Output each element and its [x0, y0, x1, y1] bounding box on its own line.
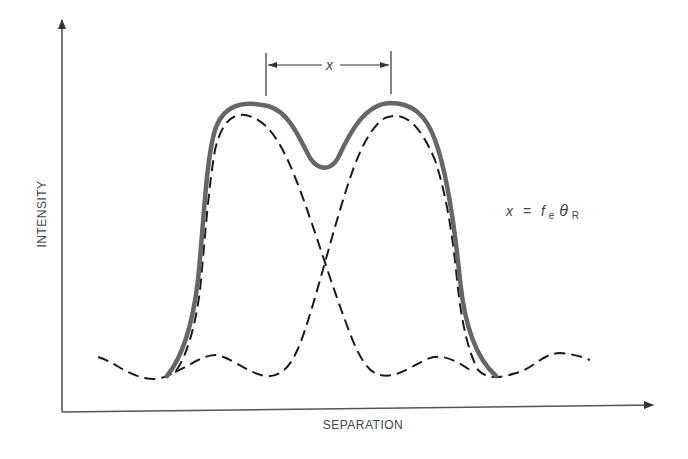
equation: x = f e θ R — [505, 202, 579, 222]
separation-marker: x — [266, 51, 391, 96]
equation-f: f — [541, 203, 547, 219]
equation-theta: θ — [559, 202, 568, 219]
component-curves — [98, 115, 590, 379]
x-axis — [62, 405, 653, 412]
diagram-canvas: x x = f e θ R INTENSITY SEPARATION — [0, 0, 688, 459]
equation-theta-subscript: R — [572, 210, 579, 221]
equation-f-subscript: e — [549, 210, 555, 221]
equation-equals: = — [523, 203, 531, 219]
x-axis-label: SEPARATION — [323, 418, 404, 432]
y-axis-label: INTENSITY — [35, 180, 49, 247]
left-component-curve — [98, 115, 470, 379]
right-component-curve — [175, 116, 590, 377]
separation-label: x — [325, 57, 334, 73]
equation-lhs: x — [505, 203, 514, 219]
